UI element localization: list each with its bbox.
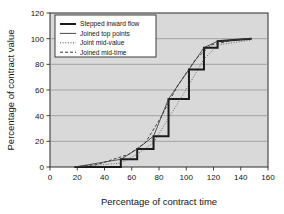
- chart-container: 020406080100120140160 020406080100120 Pe…: [0, 0, 284, 214]
- y-tick-label: 120: [31, 9, 45, 18]
- y-tick-label: 20: [35, 137, 44, 146]
- y-tick-label: 40: [35, 112, 44, 121]
- legend-label: Joined mid-time: [80, 49, 127, 56]
- y-tick-label: 80: [35, 60, 44, 69]
- chart-legend: Stepped inward flowJoined top pointsJoin…: [55, 15, 156, 57]
- y-tick-label: 0: [40, 163, 45, 172]
- x-tick-label: 20: [73, 173, 82, 182]
- x-tick-label: 140: [234, 173, 248, 182]
- x-axis-label: Percentage of contract time: [101, 196, 217, 207]
- legend-label: Stepped inward flow: [80, 20, 140, 28]
- x-tick-label: 100: [180, 173, 194, 182]
- chart-figure: 020406080100120140160 020406080100120 Pe…: [0, 0, 284, 214]
- y-tick-label: 60: [35, 86, 44, 95]
- x-tick-label: 60: [127, 173, 136, 182]
- x-tick-label: 40: [100, 173, 109, 182]
- legend-label: Joined top points: [80, 30, 131, 38]
- legend-label: Joint mid-value: [80, 39, 125, 46]
- y-tick-label: 100: [31, 35, 45, 44]
- x-tick-label: 120: [207, 173, 221, 182]
- x-tick-label: 0: [48, 173, 53, 182]
- x-tick-label: 80: [155, 173, 164, 182]
- y-axis-label: Percentage of contract value: [5, 30, 16, 151]
- x-tick-label: 160: [261, 173, 275, 182]
